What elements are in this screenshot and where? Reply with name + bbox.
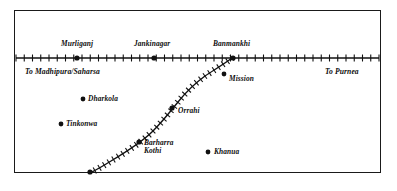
branch-rail-sleeper (221, 61, 225, 67)
station-label-jankinagar-line: Jankinagar (134, 40, 170, 49)
station-label-banmankhi-line: Banmankhi (213, 40, 250, 49)
branch-rail-sleeper (203, 73, 207, 78)
village-label-mission-line: Mission (229, 75, 254, 84)
village-dot-dharkola (81, 97, 86, 102)
village-dot-khanua (206, 150, 211, 155)
station-label-murliganj: Murliganj (61, 40, 93, 49)
direction-label-east-line: To Purnea (325, 68, 359, 77)
direction-label-east: To Purnea (325, 68, 359, 77)
branch-rail-sleeper (226, 58, 230, 64)
station-label-jankinagar: Jankinagar (134, 40, 170, 49)
village-label-khanua-line: Khanua (214, 148, 239, 157)
branch-rail-sleeper (208, 70, 212, 76)
branch-railway-line-group (90, 55, 234, 173)
branch-station-dot-orrahi (169, 105, 174, 110)
branch-station-label-barharra-kothi-line: Kothi (144, 147, 174, 155)
branch-station-label-orrahi: Orrahi (178, 107, 200, 116)
village-label-tinkonwa-line: Tinkonwa (66, 120, 97, 129)
branch-station-label-barharra-kothi: BarharraKothi (144, 139, 174, 156)
railway-sketch-map: MurliganjJankinagarBanmankhiOrrahiBarhar… (0, 0, 397, 191)
station-dot-banmankhi (230, 55, 235, 60)
village-label-dharkola-line: Dharkola (88, 95, 118, 104)
village-label-dharkola: Dharkola (88, 95, 118, 104)
village-label-tinkonwa: Tinkonwa (66, 120, 97, 129)
village-dot-tinkonwa (59, 122, 64, 127)
village-dot-mission (222, 72, 227, 77)
branch-station-dot-barharra-kothi (136, 139, 141, 144)
station-dot-jankinagar (151, 55, 156, 60)
village-label-khanua: Khanua (214, 148, 239, 157)
main-railway-line-group (16, 55, 379, 62)
branch-station-dot-terminus (87, 169, 92, 174)
map-lines-layer (0, 0, 397, 191)
station-label-banmankhi: Banmankhi (213, 40, 250, 49)
direction-label-west-line: To Madhipura/Saharsa (25, 68, 100, 77)
branch-station-label-orrahi-line: Orrahi (178, 107, 200, 116)
direction-label-west: To Madhipura/Saharsa (25, 68, 100, 77)
station-label-murliganj-line: Murliganj (61, 40, 93, 49)
station-dot-murliganj (74, 55, 79, 60)
village-label-mission: Mission (229, 75, 254, 84)
